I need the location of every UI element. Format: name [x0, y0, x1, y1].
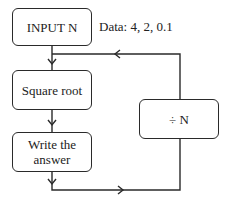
input-node: INPUT N: [12, 8, 92, 46]
data-annotation: Data: 4, 2, 0.1: [99, 19, 173, 35]
square-root-node-label: Square root: [22, 83, 82, 98]
input-node-label: INPUT N: [27, 20, 78, 35]
write-answer-line1: Write the: [28, 137, 76, 152]
write-answer-line2: answer: [34, 152, 71, 167]
divide-node-label: ÷ N: [169, 112, 189, 127]
divide-node: ÷ N: [139, 99, 219, 139]
square-root-node: Square root: [12, 70, 92, 110]
write-answer-node: Write the answer: [12, 132, 92, 172]
